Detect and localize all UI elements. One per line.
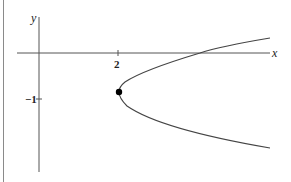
x-axis-label: x <box>271 46 278 60</box>
vertex-point <box>116 89 122 95</box>
x-tick-label-2: 2 <box>114 58 120 70</box>
parabola-curve <box>119 38 270 148</box>
parabola-plot: y x 2 −1 <box>0 0 291 182</box>
y-tick-label-neg1: −1 <box>25 93 37 105</box>
chart-frame: y x 2 −1 <box>0 0 291 182</box>
y-axis-label: y <box>30 11 37 25</box>
